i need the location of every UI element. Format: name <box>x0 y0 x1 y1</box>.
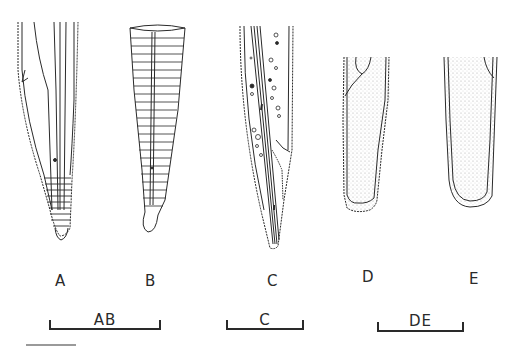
panel-label-b: B <box>145 272 156 290</box>
specimen-d-drawing <box>343 57 390 212</box>
page-edge-rule <box>26 344 76 346</box>
specimen-e-drawing <box>444 57 497 207</box>
panel-label-d: D <box>362 268 374 286</box>
scale-label-de: DE <box>377 312 464 330</box>
specimen-b-drawing <box>130 25 185 232</box>
specimen-c-drawing <box>240 26 293 249</box>
scale-label-ab: AB <box>49 311 161 329</box>
specimen-drawings <box>0 0 517 347</box>
scientific-figure: A B C D E AB C DE <box>0 0 517 347</box>
panel-label-a: A <box>55 272 66 290</box>
scale-label-c: C <box>226 311 304 329</box>
specimen-a-drawing <box>18 22 78 240</box>
panel-label-e: E <box>469 270 479 288</box>
panel-label-c: C <box>267 272 278 290</box>
